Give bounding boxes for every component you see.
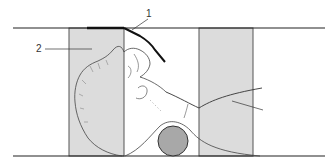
right-support-panel (199, 28, 253, 156)
neck-line (150, 100, 162, 112)
shoulder-roll (158, 126, 188, 156)
positioning-diagram: 1 2 (0, 0, 335, 164)
nose-mouth (128, 54, 138, 78)
label-1: 1 (146, 8, 152, 19)
label-2: 2 (36, 43, 42, 54)
clavicle-detail (184, 104, 188, 118)
ear (136, 86, 147, 99)
tape-strip (124, 28, 165, 62)
